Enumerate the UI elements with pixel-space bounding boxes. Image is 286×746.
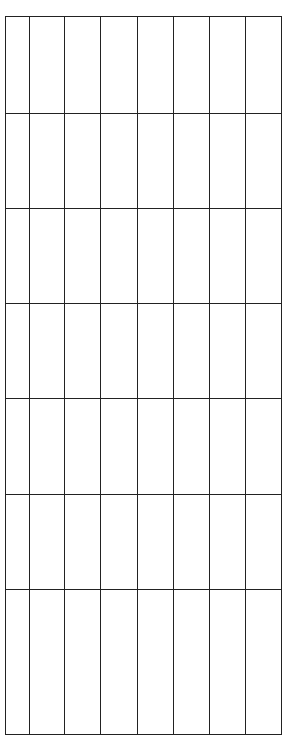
grid-cell bbox=[6, 114, 30, 209]
grid-cell bbox=[246, 590, 282, 735]
grid-row bbox=[6, 209, 282, 304]
grid-cell bbox=[30, 399, 65, 495]
grid-cell bbox=[65, 114, 101, 209]
grid-cell bbox=[174, 304, 210, 399]
grid-cell bbox=[174, 17, 210, 114]
empty-grid-table bbox=[5, 16, 282, 735]
grid-cell bbox=[30, 17, 65, 114]
grid-cell bbox=[6, 209, 30, 304]
grid-cell bbox=[246, 209, 282, 304]
grid-cell bbox=[65, 17, 101, 114]
grid-cell bbox=[138, 399, 174, 495]
grid-cell bbox=[210, 399, 246, 495]
grid-cell bbox=[174, 209, 210, 304]
grid-cell bbox=[65, 304, 101, 399]
grid-cell bbox=[6, 399, 30, 495]
grid-cell bbox=[6, 304, 30, 399]
grid-cell bbox=[210, 209, 246, 304]
grid-row bbox=[6, 114, 282, 209]
grid-cell bbox=[65, 590, 101, 735]
grid-cell bbox=[101, 114, 138, 209]
grid-cell bbox=[174, 590, 210, 735]
grid-cell bbox=[246, 17, 282, 114]
grid-row bbox=[6, 590, 282, 735]
grid-cell bbox=[65, 495, 101, 590]
grid-row bbox=[6, 17, 282, 114]
grid-cell bbox=[138, 17, 174, 114]
grid-cell bbox=[6, 17, 30, 114]
grid-row bbox=[6, 495, 282, 590]
grid-cell bbox=[174, 495, 210, 590]
grid-cell bbox=[30, 114, 65, 209]
grid-cell bbox=[210, 304, 246, 399]
grid-cell bbox=[101, 590, 138, 735]
grid-cell bbox=[174, 114, 210, 209]
grid-cell bbox=[6, 590, 30, 735]
grid-cell bbox=[210, 495, 246, 590]
grid-cell bbox=[210, 590, 246, 735]
grid-cell bbox=[30, 495, 65, 590]
grid-cell bbox=[246, 114, 282, 209]
grid-cell bbox=[210, 114, 246, 209]
grid-cell bbox=[65, 209, 101, 304]
grid-cell bbox=[138, 590, 174, 735]
grid-cell bbox=[246, 304, 282, 399]
grid-cell bbox=[138, 495, 174, 590]
grid-cell bbox=[138, 304, 174, 399]
grid-cell bbox=[101, 304, 138, 399]
grid-cell bbox=[138, 209, 174, 304]
grid-cell bbox=[101, 399, 138, 495]
grid-cell bbox=[210, 17, 246, 114]
grid-cell bbox=[65, 399, 101, 495]
grid-cell bbox=[30, 209, 65, 304]
grid-cell bbox=[6, 495, 30, 590]
grid-row bbox=[6, 304, 282, 399]
grid-row bbox=[6, 399, 282, 495]
grid-cell bbox=[138, 114, 174, 209]
grid-cell bbox=[101, 209, 138, 304]
grid-cell bbox=[30, 590, 65, 735]
grid-cell bbox=[101, 17, 138, 114]
grid-cell bbox=[101, 495, 138, 590]
grid-cell bbox=[246, 399, 282, 495]
grid-cell bbox=[30, 304, 65, 399]
grid-cell bbox=[174, 399, 210, 495]
grid-cell bbox=[246, 495, 282, 590]
